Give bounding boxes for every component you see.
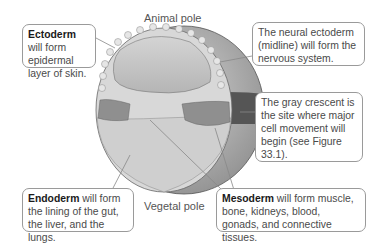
ectoderm-term: Ectoderm [28,29,76,40]
ectoderm-description: will form epidermal layer of skin. [28,42,86,79]
vegetal-pole-label: Vegetal pole [144,200,205,212]
mesoderm-left [98,100,130,121]
mesoderm-right [182,101,230,125]
animal-pole-label: Animal pole [144,12,201,24]
mesoderm-callout: Mesoderm will form muscle, bone, kidneys… [216,188,366,232]
mesoderm-term: Mesoderm [222,193,274,204]
endoderm-term: Endoderm [28,193,79,204]
gray-crescent-text: The gray crescent is the site where majo… [261,97,355,160]
endoderm-callout: Endoderm will form the lining of the gut… [22,188,134,232]
neural-ectoderm-text: The neural ectoderm (midline) will form … [258,27,356,64]
neural-ectoderm-callout: The neural ectoderm (midline) will form … [252,22,365,66]
ectoderm-callout: Ectoderm will form epidermal layer of sk… [22,24,96,68]
gray-crescent-callout: The gray crescent is the site where majo… [255,92,363,162]
